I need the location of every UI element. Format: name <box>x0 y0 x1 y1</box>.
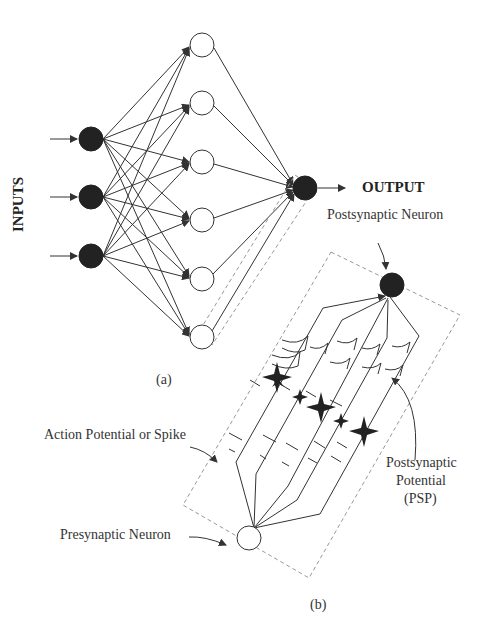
synapse-star-small <box>333 413 349 429</box>
input-neuron <box>79 244 103 268</box>
hidden-neuron <box>190 150 214 174</box>
hidden-neuron <box>190 208 214 232</box>
hidden-neuron <box>190 267 214 291</box>
synapse-star-small <box>292 389 308 405</box>
input-neuron <box>79 127 103 151</box>
hidden-layer <box>190 33 214 349</box>
psp-pointer-arrow <box>392 378 416 460</box>
output-neuron <box>293 176 317 200</box>
presynaptic-neuron-label: Presynaptic Neuron <box>60 527 171 543</box>
psp-label-line-2: Potential <box>396 473 446 489</box>
presynaptic-neuron <box>237 526 261 550</box>
spike-label: Action Potential or Spike <box>44 427 186 443</box>
output-label: OUTPUT <box>362 179 425 196</box>
highlight-dashed-box <box>200 175 315 345</box>
inputs-label: INPUTS <box>10 177 27 232</box>
action-potential-ticks <box>229 380 347 466</box>
postsynaptic-pointer-arrow <box>378 243 386 269</box>
caption-b: (b) <box>310 597 326 613</box>
input-hidden-connections <box>103 47 189 336</box>
synapse-star-large <box>306 392 336 423</box>
presynaptic-pointer-arrow <box>189 537 226 545</box>
psp-label-line-3: (PSP) <box>404 491 437 507</box>
postsynaptic-neuron <box>380 273 404 297</box>
synapse-star-large <box>349 416 379 447</box>
hidden-neuron <box>190 91 214 115</box>
hidden-neuron <box>190 33 214 57</box>
synapse-stars <box>262 362 379 447</box>
axon-branches <box>236 296 419 528</box>
input-layer <box>79 127 103 268</box>
caption-a: (a) <box>156 372 172 388</box>
input-neuron <box>79 185 103 209</box>
psp-label-line-1: Postsynaptic <box>386 455 457 471</box>
psp-curves <box>272 336 410 376</box>
postsynaptic-neuron-label: Postsynaptic Neuron <box>327 207 443 223</box>
hidden-neuron <box>190 325 214 349</box>
hidden-output-connections <box>212 48 294 331</box>
